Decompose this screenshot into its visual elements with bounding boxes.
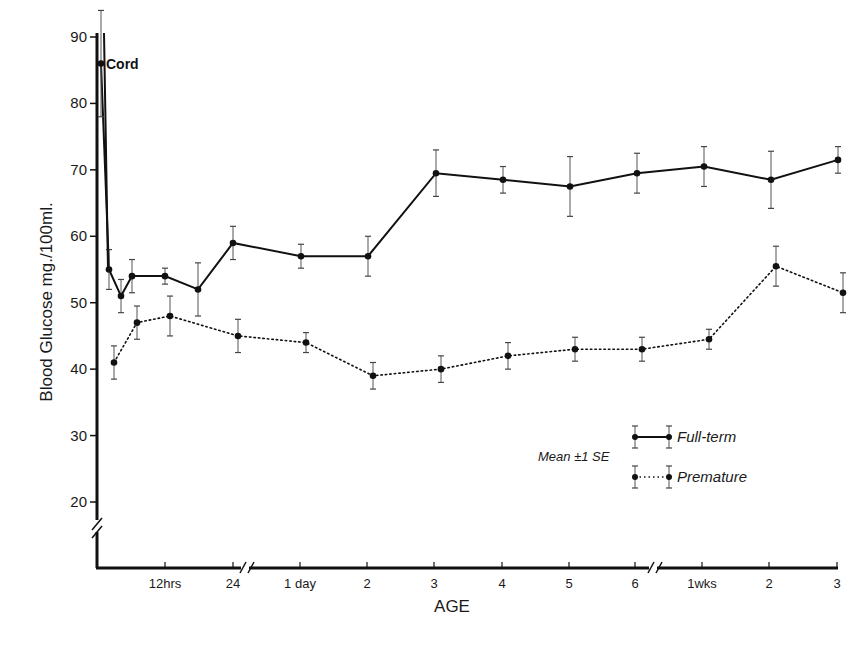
data-point <box>129 273 136 280</box>
data-point <box>840 289 847 296</box>
legend-label: Premature <box>677 468 747 485</box>
y-axis-title: Blood Glucose mg./100ml. <box>37 202 56 401</box>
y-tick-label: 40 <box>70 360 87 377</box>
data-point <box>162 273 169 280</box>
legend: Full-termPrematureMean ±1 SE <box>538 426 747 488</box>
data-point <box>433 170 440 177</box>
x-tick-label: 12hrs <box>149 576 182 591</box>
y-tick-label: 50 <box>70 294 87 311</box>
legend-marker <box>632 434 638 440</box>
data-point <box>106 266 113 273</box>
data-point <box>134 319 141 326</box>
data-point <box>235 333 242 340</box>
data-point <box>773 263 780 270</box>
y-tick-label: 30 <box>70 427 87 444</box>
data-point <box>118 293 125 300</box>
data-point <box>634 170 641 177</box>
data-point <box>98 60 105 67</box>
x-tick-label: 4 <box>498 576 505 591</box>
x-tick-label: 3 <box>833 576 840 591</box>
data-point <box>706 336 713 343</box>
data-point <box>365 253 372 260</box>
data-point <box>298 253 305 260</box>
y-tick-label: 70 <box>70 161 87 178</box>
data-point <box>111 359 118 366</box>
data-point <box>567 183 574 190</box>
legend-marker <box>632 474 638 480</box>
data-point <box>639 346 646 353</box>
y-tick-label: 60 <box>70 227 87 244</box>
x-tick-label: 1 day <box>284 576 316 591</box>
y-tick-label: 80 <box>70 94 87 111</box>
data-point <box>167 313 174 320</box>
x-tick-label: 1wks <box>687 576 717 591</box>
y-tick-label: 20 <box>70 493 87 510</box>
series-full-term: Cord <box>98 10 842 316</box>
blood-glucose-chart: 203040506070809012hrs241 day234561wks23 … <box>0 0 868 645</box>
data-point <box>835 157 842 164</box>
legend-marker <box>666 434 672 440</box>
series-line <box>101 64 838 297</box>
data-point <box>230 240 237 247</box>
data-point <box>505 353 512 360</box>
legend-note: Mean ±1 SE <box>538 449 610 464</box>
legend-label: Full-term <box>677 428 736 445</box>
series-premature <box>111 246 847 389</box>
legend-marker <box>666 474 672 480</box>
x-tick-label: 6 <box>631 576 638 591</box>
x-axis-title: AGE <box>434 597 470 616</box>
data-point <box>572 346 579 353</box>
data-point <box>438 366 445 373</box>
x-tick-label: 24 <box>226 576 240 591</box>
x-tick-label: 2 <box>765 576 772 591</box>
x-tick-label: 5 <box>565 576 572 591</box>
data-point <box>768 177 775 184</box>
cord-annotation: Cord <box>106 56 139 72</box>
data-point <box>370 372 377 379</box>
x-tick-label: 2 <box>363 576 370 591</box>
series-line <box>114 266 843 376</box>
data-point <box>701 163 708 170</box>
x-tick-label: 3 <box>430 576 437 591</box>
y-tick-label: 90 <box>70 28 87 45</box>
data-point <box>195 286 202 293</box>
axes: 203040506070809012hrs241 day234561wks23 <box>70 28 840 591</box>
data-point <box>500 177 507 184</box>
data-point <box>303 339 310 346</box>
